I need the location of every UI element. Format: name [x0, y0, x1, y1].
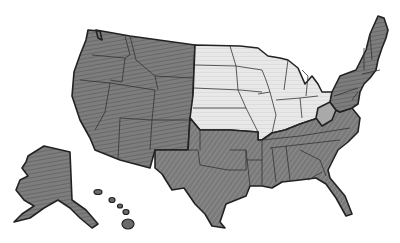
state-hawaii [94, 190, 134, 230]
us-map [0, 0, 400, 243]
region-northeast [330, 16, 388, 112]
state-alaska [14, 146, 98, 228]
region-west [72, 30, 200, 168]
